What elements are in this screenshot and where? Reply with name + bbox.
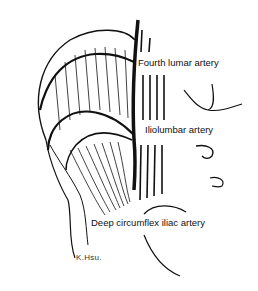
fourth-lumbar-branch <box>40 54 134 110</box>
fragment-hook-1 <box>196 145 213 158</box>
artist-signature: K.Hsu. <box>76 253 102 262</box>
label-fourth-lumbar-artery: Fourth lumar artery <box>137 57 220 68</box>
inner-contour <box>50 145 88 245</box>
anatomical-illustration <box>0 0 258 291</box>
right-fibers <box>140 30 164 200</box>
muscle-fibers <box>55 47 130 215</box>
label-deep-circumflex-iliac-artery: Deep circumflex iliac artery <box>90 217 206 228</box>
iliolumbar-branch <box>48 112 134 150</box>
main-vessel <box>133 20 138 190</box>
ilium-outer-contour <box>46 140 75 258</box>
inner-arch <box>66 133 132 170</box>
label-iliolumbar-artery: Iliolumbar artery <box>144 124 214 135</box>
fragment-hook-2 <box>210 177 223 186</box>
vertebral-fragment <box>184 84 242 111</box>
